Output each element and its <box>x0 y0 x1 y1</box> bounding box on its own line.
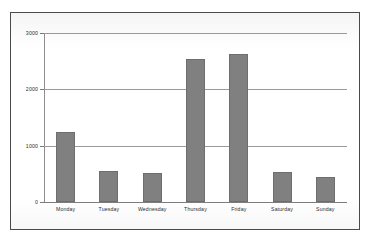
chart-plot-wrapper: 0100020003000 MondayTuesdayWednesdayThur… <box>11 13 359 229</box>
x-axis-label-saturday: Saturday <box>260 206 303 213</box>
x-axis-label-thursday: Thursday <box>174 206 217 213</box>
bar-tuesday[interactable] <box>99 171 118 202</box>
x-axis-label-monday: Monday <box>44 206 87 213</box>
y-axis-tick-label: 2000 <box>11 86 38 92</box>
x-axis-label-friday: Friday <box>217 206 260 213</box>
x-axis-label-sunday: Sunday <box>304 206 347 213</box>
bar-thursday[interactable] <box>186 59 205 202</box>
x-axis-labels: MondayTuesdayWednesdayThursdayFridaySatu… <box>44 206 347 220</box>
y-axis-tick <box>40 202 44 203</box>
chart-frame: 0100020003000 MondayTuesdayWednesdayThur… <box>10 12 360 230</box>
x-axis-label-tuesday: Tuesday <box>87 206 130 213</box>
x-axis-label-wednesday: Wednesday <box>131 206 174 213</box>
y-axis-tick-label: 1000 <box>11 143 38 149</box>
bar-monday[interactable] <box>56 132 75 202</box>
x-axis-baseline <box>44 202 347 203</box>
y-axis-tick-label: 3000 <box>11 30 38 36</box>
y-axis-tick-label: 0 <box>11 199 38 205</box>
y-axis-tick-label-text: 2000 <box>26 86 38 92</box>
plot-area <box>44 33 347 202</box>
y-axis-tick-label-text: 1000 <box>26 143 38 149</box>
bar-sunday[interactable] <box>316 177 335 202</box>
bar-saturday[interactable] <box>273 172 292 202</box>
y-axis-tick-label-text: 0 <box>35 199 38 205</box>
bar-friday[interactable] <box>229 54 248 202</box>
bar-wednesday[interactable] <box>143 173 162 202</box>
y-axis-tick-label-text: 3000 <box>26 30 38 36</box>
